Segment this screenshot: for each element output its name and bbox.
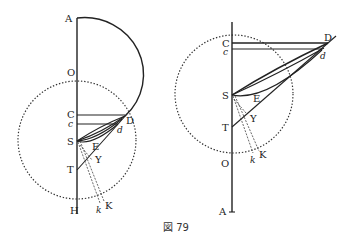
right-chord-SD xyxy=(232,43,328,95)
label-O-right: O xyxy=(221,158,229,169)
label-D-right: D xyxy=(324,32,332,43)
label-Y: Y xyxy=(94,154,102,165)
label-H: H xyxy=(70,205,79,216)
label-D: D xyxy=(126,115,134,126)
right-tangent-TD xyxy=(232,36,336,127)
right-dashed-SY xyxy=(234,99,246,113)
right-diagram: C c D d S E Y T O k K A xyxy=(175,22,336,217)
label-S: S xyxy=(67,136,74,147)
right-dashed-Sk xyxy=(233,96,253,153)
label-k: k xyxy=(96,205,101,215)
label-T: T xyxy=(67,164,74,175)
label-k-right: k xyxy=(250,155,255,165)
left-diagram: A O C c D d S E Y T H k K xyxy=(18,13,144,216)
label-E-right: E xyxy=(253,93,260,104)
label-Y-right: Y xyxy=(249,113,257,124)
label-d-right: d xyxy=(320,51,326,61)
label-S-right: S xyxy=(222,90,229,101)
label-A: A xyxy=(64,13,73,24)
label-E: E xyxy=(92,141,99,152)
label-c: c xyxy=(68,119,73,129)
left-semicircle xyxy=(77,18,144,116)
label-A-right: A xyxy=(218,206,227,217)
label-O: O xyxy=(67,67,75,78)
label-K-right: K xyxy=(259,149,267,160)
label-d: d xyxy=(117,125,123,135)
label-K: K xyxy=(105,200,113,211)
figure-caption: 図 79 xyxy=(163,222,189,233)
label-c-right: c xyxy=(223,47,228,57)
figure-canvas: A O C c D d S E Y T H k K C c D d S xyxy=(0,0,353,245)
label-T-right: T xyxy=(222,122,229,133)
